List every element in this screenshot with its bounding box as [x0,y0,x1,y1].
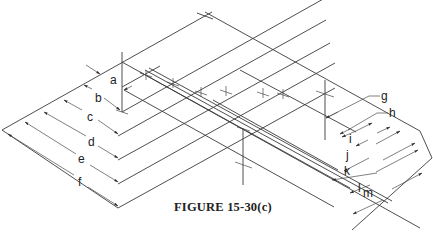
label-d: d [88,135,95,149]
figure-caption: FIGURE 15-30(c) [174,200,272,214]
label-m: m [363,186,373,200]
label-c: c [87,110,93,124]
label-j: j [345,148,349,162]
left-parallel-lines [116,0,420,228]
left-labels: a b c d e f [78,73,117,189]
outline-lines [2,12,420,208]
right-parallel-lines [124,68,392,207]
label-l: l [358,181,361,195]
right-dimensions [326,96,432,230]
label-b: b [95,91,102,105]
label-i: i [349,132,352,146]
label-g: g [381,89,388,103]
label-a: a [110,73,117,87]
label-f: f [78,175,82,189]
label-k: k [344,164,351,178]
isometric-dimension-diagram: a b c d e f g h i j k l m FIGURE 15-30(c… [0,0,433,242]
label-h: h [389,106,396,120]
label-e: e [78,152,85,166]
